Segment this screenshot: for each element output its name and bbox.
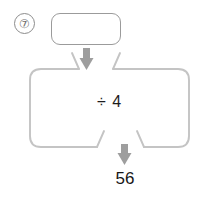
operation-label: ÷ 4 [29, 93, 190, 111]
notch-bottom-left [97, 131, 104, 147]
input-answer-box[interactable] [51, 13, 121, 45]
arrow-down-icon-output [118, 144, 132, 165]
output-value: 56 [0, 169, 206, 189]
notch-top-right [113, 53, 120, 69]
arrow-down-icon-input [80, 48, 94, 70]
notch-bottom-right [137, 131, 144, 147]
problem-number-marker-icon: ⑦ [14, 13, 35, 34]
notch-top-left [72, 53, 79, 69]
worksheet-problem: ⑦ ÷ 4 56 [0, 0, 206, 204]
